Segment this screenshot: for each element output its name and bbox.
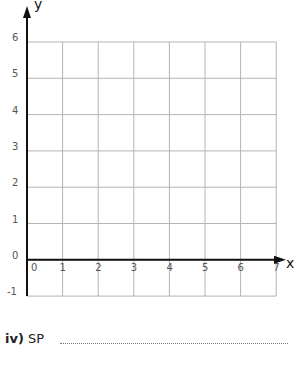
x-tick-label: 1 <box>60 262 66 273</box>
question-number: iv) <box>5 331 24 346</box>
x-tick-label: 0 <box>31 262 37 273</box>
y-tick-label: 3 <box>12 141 18 152</box>
y-axis-label: y <box>34 0 42 12</box>
y-tick-label: 4 <box>12 105 18 116</box>
x-tick-label: 3 <box>131 262 137 273</box>
y-tick-label: 2 <box>12 177 18 188</box>
y-tick-label: 6 <box>12 32 18 43</box>
answer-blank[interactable] <box>60 343 288 344</box>
question-line: iv) SP <box>5 331 44 346</box>
y-tick-label: -1 <box>7 286 17 297</box>
question-label: SP <box>28 331 44 346</box>
x-tick-label: 6 <box>238 262 244 273</box>
x-tick-label: 7 <box>273 262 279 273</box>
x-tick-label: 4 <box>166 262 172 273</box>
x-tick-label: 5 <box>202 262 208 273</box>
y-tick-label: 5 <box>12 68 18 79</box>
y-axis-arrow-icon <box>23 6 31 18</box>
x-axis-label: x <box>286 255 294 271</box>
y-tick-label: 1 <box>12 214 18 225</box>
x-tick-label: 2 <box>95 262 101 273</box>
y-tick-label: 0 <box>12 250 18 261</box>
coordinate-grid <box>0 0 297 377</box>
